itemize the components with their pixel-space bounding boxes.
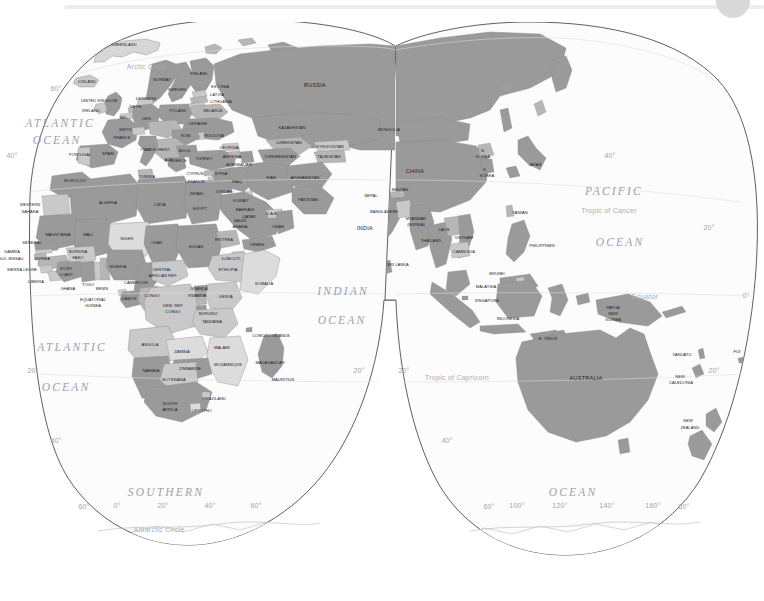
land-tasmania (618, 438, 630, 454)
land-azerbaijan (240, 151, 254, 163)
land-singapore (462, 296, 468, 300)
land-cyprus (204, 170, 214, 176)
world-map[interactable]: ATLANTICOCEANATLANTICOCEANINDIANOCEANPAC… (0, 0, 764, 601)
land-kyrgyzstan (314, 140, 350, 152)
map-canvas (0, 0, 764, 601)
land-swaziland (202, 392, 210, 400)
land-ghana (80, 261, 96, 282)
land-rwanda (196, 297, 207, 305)
land-switzerland (132, 127, 145, 135)
land-western-sahara (42, 194, 70, 216)
land-togo (94, 262, 101, 280)
land-portugal (78, 147, 90, 166)
land-egypt (184, 180, 222, 224)
land-armenia (228, 151, 241, 159)
land-cambodia (450, 242, 470, 258)
land-tajikistan (314, 150, 346, 163)
land-lesotho (190, 403, 201, 412)
land-antarctica-right (450, 522, 706, 570)
land-burkina (66, 246, 96, 262)
land-bhutan (390, 191, 405, 198)
land-bangladesh (396, 200, 412, 218)
land-georgia (222, 143, 240, 151)
land-south-korea (480, 159, 494, 174)
land-java (480, 324, 526, 334)
land-comoro (246, 327, 252, 332)
